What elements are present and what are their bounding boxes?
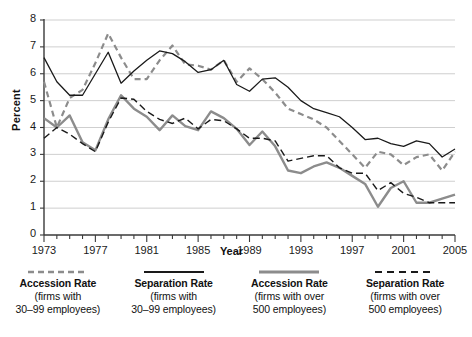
legend-title: Separation Rate [366, 277, 444, 290]
series-line-1 [44, 33, 455, 170]
legend-item-1: Accession Rate(firms with30–99 employees… [0, 262, 116, 315]
legend-item-4: Separation Rate(firms with over500 emplo… [347, 262, 463, 315]
legend-title: Separation Rate [134, 277, 212, 290]
legend-subtitle-line2: 30–99 employees) [131, 303, 216, 316]
legend-subtitle-line1: (firms with over [255, 290, 325, 303]
legend-swatch-dashed-black [374, 262, 436, 270]
legend-swatch-solid-gray [258, 262, 320, 270]
x-axis-title: Year [0, 245, 463, 257]
legend-item-2: Separation Rate(firms with30–99 employee… [116, 262, 232, 315]
legend-subtitle-line1: (firms with over [370, 290, 440, 303]
legend-subtitle-line1: (firms with [35, 290, 82, 303]
chart-legend: Accession Rate(firms with30–99 employees… [0, 262, 463, 315]
legend-subtitle-line2: 500 employees) [253, 303, 326, 316]
legend-title: Accession Rate [19, 277, 96, 290]
series-line-2 [44, 51, 455, 157]
plot-area [0, 0, 463, 250]
legend-subtitle-line1: (firms with [150, 290, 197, 303]
legend-subtitle-line2: 500 employees) [368, 303, 441, 316]
series-line-3 [44, 95, 455, 207]
legend-title: Accession Rate [251, 277, 328, 290]
legend-subtitle-line2: 30–99 employees) [15, 303, 100, 316]
legend-swatch-dashed-gray [27, 262, 89, 270]
legend-swatch-solid-black [143, 262, 205, 270]
legend-item-3: Accession Rate(firms with over500 employ… [232, 262, 348, 315]
